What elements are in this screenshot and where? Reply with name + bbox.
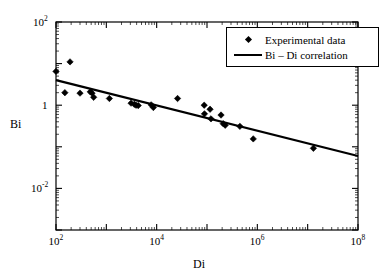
y-tick-label-1: 1 (42, 100, 48, 111)
diamond-marker-icon (233, 37, 263, 42)
x-tick-label-0: 102 (49, 236, 64, 247)
chart-figure: Bi Di 102104106108102110-2 Experimental … (0, 0, 385, 280)
y-tick-label-0: 102 (33, 17, 48, 28)
x-axis-title: Di (193, 258, 205, 270)
y-axis-title: Bi (10, 118, 21, 130)
correlation-line (56, 80, 358, 156)
x-axis-title-text: Di (193, 257, 205, 271)
legend-item-experimental-data: Experimental data (233, 32, 370, 47)
legend-label-1: Bi – Di correlation (263, 49, 348, 61)
legend-item-correlation: Bi – Di correlation (233, 47, 370, 62)
x-tick-label-1: 104 (149, 236, 164, 247)
chart-legend: Experimental data Bi – Di correlation (226, 27, 379, 67)
line-marker-icon (233, 54, 263, 56)
y-axis-title-text: Bi (10, 117, 21, 131)
data-points (53, 59, 317, 152)
legend-label-0: Experimental data (263, 34, 345, 46)
x-tick-label-2: 106 (250, 236, 265, 247)
y-tick-label-2: 10-2 (31, 183, 48, 194)
x-tick-label-3: 108 (351, 236, 366, 247)
